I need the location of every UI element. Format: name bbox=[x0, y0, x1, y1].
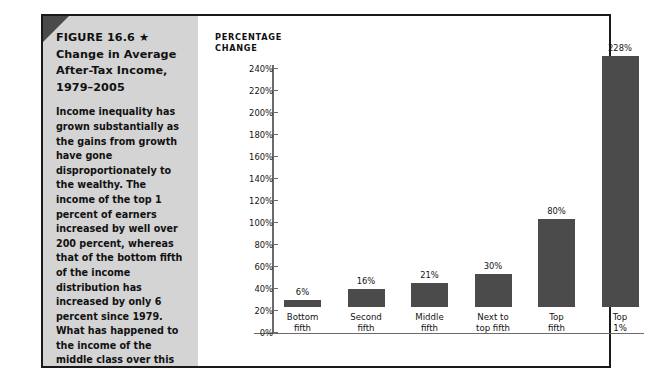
y-axis-tick-label: 160% bbox=[208, 152, 278, 162]
bar-category-label: Top fifth bbox=[524, 312, 590, 335]
bar[interactable] bbox=[348, 289, 385, 307]
bar-value-label: 16% bbox=[357, 276, 376, 286]
bar-value-label: 21% bbox=[420, 270, 439, 280]
figure-title: FIGURE 16.6 ★ Change in Average After-Ta… bbox=[56, 30, 186, 96]
y-axis-tick-label: 120% bbox=[208, 196, 278, 206]
bar-group[interactable]: 6%Bottom fifth bbox=[284, 300, 321, 307]
chart-area: PERCENTAGE CHANGE 240%220%200%180%160%14… bbox=[198, 16, 609, 366]
figure-title-line-3: After-Tax Income, bbox=[56, 63, 186, 80]
bar[interactable] bbox=[538, 219, 575, 307]
caption-panel: FIGURE 16.6 ★ Change in Average After-Ta… bbox=[43, 16, 198, 366]
figure-frame: FIGURE 16.6 ★ Change in Average After-Ta… bbox=[41, 14, 611, 368]
bar-group[interactable]: 16%Second fifth bbox=[348, 289, 385, 307]
y-axis-tick-label: 40% bbox=[208, 284, 278, 294]
bar-group[interactable]: 21%Middle fifth bbox=[411, 283, 448, 306]
bar-value-label: 228% bbox=[608, 43, 632, 53]
figure-title-line-4: 1979–2005 bbox=[56, 80, 186, 97]
plot-region: 240%220%200%180%160%140%120%100%80%60%40… bbox=[198, 16, 609, 366]
bar-group[interactable]: 228%Top 1% bbox=[602, 56, 639, 307]
y-axis-tick-label: 80% bbox=[208, 240, 278, 250]
bar[interactable] bbox=[602, 56, 639, 307]
y-axis-tick-label: 180% bbox=[208, 130, 278, 140]
figure-title-line-2: Change in Average bbox=[56, 47, 186, 64]
figure-container: FIGURE 16.6 ★ Change in Average After-Ta… bbox=[0, 0, 658, 376]
y-axis-tick-label: 140% bbox=[208, 174, 278, 184]
y-axis-tick-label: 20% bbox=[208, 306, 278, 316]
bar[interactable] bbox=[411, 283, 448, 306]
y-axis-tick-label: 240% bbox=[208, 64, 278, 74]
bar-category-label: Bottom fifth bbox=[270, 312, 336, 335]
y-axis-tick-label: 60% bbox=[208, 262, 278, 272]
bar-group[interactable]: 30%Next to top fifth bbox=[475, 274, 512, 307]
bar-value-label: 6% bbox=[296, 287, 309, 297]
y-axis-tick-label: 0% bbox=[208, 328, 278, 338]
figure-caption-text: Income inequality has grown substantiall… bbox=[56, 105, 186, 366]
bar-value-label: 80% bbox=[547, 206, 566, 216]
bar-category-label: Top 1% bbox=[587, 312, 653, 335]
y-axis-tick-label: 100% bbox=[208, 218, 278, 228]
bar-category-label: Second fifth bbox=[333, 312, 399, 335]
bar-group[interactable]: 80%Top fifth bbox=[538, 219, 575, 307]
y-axis-tick-label: 200% bbox=[208, 108, 278, 118]
caption-content: FIGURE 16.6 ★ Change in Average After-Ta… bbox=[56, 30, 186, 366]
y-axis-tick-label: 220% bbox=[208, 86, 278, 96]
bar-category-label: Next to top fifth bbox=[460, 312, 526, 335]
bar[interactable] bbox=[284, 300, 321, 307]
figure-title-line-1: FIGURE 16.6 ★ bbox=[56, 30, 186, 47]
bar-category-label: Middle fifth bbox=[397, 312, 463, 335]
bar-value-label: 30% bbox=[484, 261, 503, 271]
bar[interactable] bbox=[475, 274, 512, 307]
